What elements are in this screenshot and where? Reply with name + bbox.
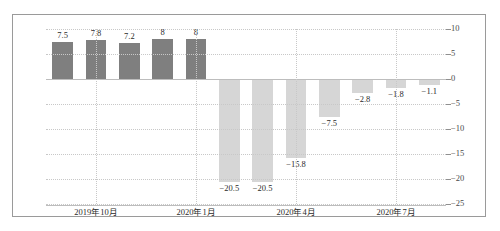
x-gridline [196, 29, 197, 204]
y-axis-tick-label: −20 [451, 174, 464, 182]
bar [52, 42, 73, 80]
y-axis-tick-label: −10 [451, 124, 464, 132]
chart-frame: 1050−5−10−15−20−257.57.87.288−20.5−20.5−… [12, 14, 486, 217]
y-axis-tick-label: 10 [451, 24, 460, 32]
y-gridline [46, 79, 446, 80]
bar-value-label: 7.2 [111, 32, 148, 41]
y-gridline [46, 204, 446, 205]
y-axis-tick-label: 0 [451, 74, 455, 82]
y-gridline [46, 54, 446, 55]
bar [352, 79, 373, 93]
x-axis-line [46, 205, 446, 206]
bar [319, 79, 340, 117]
x-gridline [396, 29, 397, 204]
bar-value-label: −20.5 [244, 184, 281, 193]
y-gridline [46, 154, 446, 155]
y-axis-tick-label: −5 [451, 99, 460, 107]
x-gridline [296, 29, 297, 204]
bar [152, 39, 173, 79]
x-axis-tick-label: 2020年7月 [351, 208, 441, 217]
x-gridline [96, 29, 97, 204]
bar-value-label: 8 [144, 28, 181, 37]
x-axis-tick-label: 2020年4月 [251, 208, 341, 217]
bar-value-label: −2.8 [344, 95, 381, 104]
y-gridline [46, 129, 446, 130]
x-axis-tick-label: 2019年10月 [51, 208, 141, 217]
y-gridline [46, 179, 446, 180]
x-axis-tick-label: 2020年1月 [151, 208, 241, 217]
bar-value-label: −7.5 [311, 119, 348, 128]
plot-area [46, 29, 446, 204]
bar-value-label: −20.5 [211, 184, 248, 193]
bar [119, 43, 140, 79]
y-axis-tick-label: 5 [451, 49, 455, 57]
y-axis-tick-label: −25 [451, 199, 464, 207]
bar [252, 79, 273, 182]
bar [219, 79, 240, 182]
bar-value-label: 7.5 [44, 31, 81, 40]
bar-value-label: −1.1 [411, 87, 448, 96]
y-gridline [46, 104, 446, 105]
y-axis-tick-label: −15 [451, 149, 464, 157]
